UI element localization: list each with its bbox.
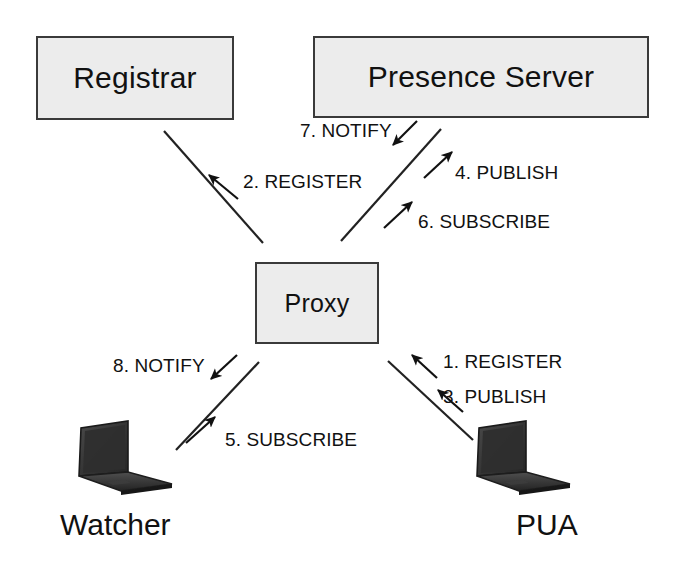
message-label-1-register: 1. REGISTER [443,352,562,371]
message-label-6-subscribe: 6. SUBSCRIBE [418,212,550,231]
arrow-8-notify [211,355,237,379]
message-label-8-notify: 8. NOTIFY [113,356,205,375]
arrow-2-register [209,175,238,199]
message-label-4-publish: 4. PUBLISH [455,163,558,182]
node-pua[interactable]: PUA [460,418,576,498]
diagram-canvas: Registrar Presence Server Proxy [0,0,676,580]
message-label-3-publish: 3. PUBLISH [443,387,546,406]
node-pua-label: PUA [516,510,578,540]
message-label-7-notify: 7. NOTIFY [300,121,392,140]
node-proxy[interactable]: Proxy [255,262,379,344]
message-label-5-subscribe: 5. SUBSCRIBE [225,430,357,449]
laptop-icon [460,418,576,498]
message-label-2-register: 2. REGISTER [243,172,362,191]
arrow-7-notify [393,121,417,145]
node-proxy-label: Proxy [285,291,350,316]
node-registrar-label: Registrar [73,63,197,93]
node-registrar[interactable]: Registrar [36,36,234,120]
node-presence-server-label: Presence Server [368,62,594,92]
arrow-1-register [412,355,437,378]
node-watcher-label: Watcher [60,510,171,540]
arrow-5-subscribe [186,417,215,443]
node-presence-server[interactable]: Presence Server [313,36,649,118]
arrow-4-publish [424,152,452,178]
arrow-6-subscribe [384,202,412,228]
laptop-icon [62,418,178,498]
node-watcher[interactable]: Watcher [62,418,178,498]
